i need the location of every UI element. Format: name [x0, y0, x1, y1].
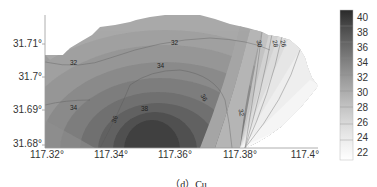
x-tick-label: 117.4°	[283, 149, 327, 160]
colorbar-label: 24	[357, 132, 368, 143]
colorbar-label: 30	[357, 87, 368, 98]
y-tick-label: 31.68°	[0, 138, 42, 149]
contour-label: 32	[171, 39, 179, 46]
x-tick-label: 117.34°	[89, 149, 133, 160]
colorbar-label: 36	[357, 42, 368, 53]
colorbar-label: 32	[357, 72, 368, 83]
figure-caption: （d）Cu	[0, 176, 377, 187]
x-tick-label: 117.36°	[153, 149, 197, 160]
contour-fill	[0, 10, 340, 187]
y-tick-label: 31.7°	[0, 71, 42, 82]
contour-label: 34	[157, 62, 165, 69]
y-tick-label: 31.71°	[0, 38, 42, 49]
contour-label: 38	[141, 105, 149, 112]
y-tick-label: 31.69°	[0, 104, 42, 115]
contour-label: 34	[70, 104, 78, 111]
x-tick-label: 117.38°	[218, 149, 262, 160]
colorbar-label: 38	[357, 27, 368, 38]
colorbar-label: 40	[357, 12, 368, 23]
colorbar	[340, 10, 353, 160]
colorbar-label: 34	[357, 57, 368, 68]
colorbar-label: 22	[357, 147, 368, 158]
x-tick-label: 117.32°	[25, 149, 69, 160]
contour-label: 32	[70, 59, 78, 66]
colorbar-label: 26	[357, 117, 368, 128]
colorbar-label: 28	[357, 102, 368, 113]
